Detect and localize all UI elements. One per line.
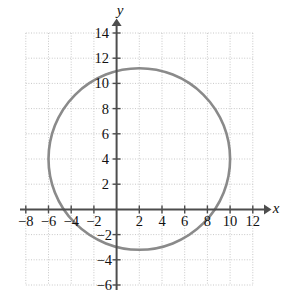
y-axis-label: y	[115, 2, 124, 18]
x-tick-label: 2	[136, 213, 143, 229]
y-tick-label: −4	[97, 252, 113, 268]
y-tick-label: 6	[102, 126, 109, 142]
y-axis-arrowhead	[112, 19, 122, 27]
x-tick-label: 12	[246, 213, 261, 229]
y-tick-label: 14	[95, 25, 110, 41]
y-tick-label: 12	[95, 50, 110, 66]
coordinate-plane-plot: −8 −6 −4 −2 2 4 6 8 10 12 14 12 10 8 6 4…	[0, 0, 289, 296]
y-tick-label: −2	[97, 227, 112, 243]
y-tick-label: 8	[102, 101, 109, 117]
x-tick-label: −4	[63, 213, 79, 229]
x-axis-arrowhead	[264, 204, 272, 214]
graph-figure: −8 −6 −4 −2 2 4 6 8 10 12 14 12 10 8 6 4…	[0, 0, 289, 296]
y-tick-label: 10	[95, 75, 110, 91]
x-tick-label: −6	[41, 213, 56, 229]
x-tick-label: 4	[158, 213, 166, 229]
y-tick-label: −6	[97, 277, 112, 293]
x-tick-labels: −8 −6 −4 −2 2 4 6 8 10 12	[18, 213, 260, 229]
y-tick-label: 4	[102, 151, 110, 167]
y-tick-label: 2	[102, 176, 109, 192]
x-tick-label: 6	[181, 213, 188, 229]
x-tick-label: 10	[223, 213, 238, 229]
x-axis-label: x	[272, 200, 280, 216]
x-tick-label: −8	[18, 213, 33, 229]
y-tick-labels: 14 12 10 8 6 4 2 −2 −4 −6	[95, 25, 113, 293]
x-tick-label: 8	[204, 213, 211, 229]
grid-lines	[26, 33, 253, 285]
